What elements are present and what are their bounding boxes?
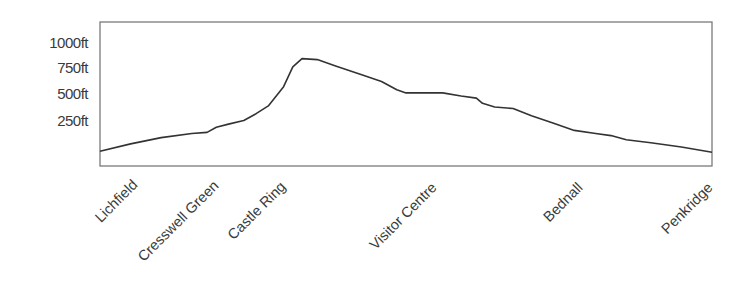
elevation-chart: 1000ft 750ft 500ft 250ft Lichfield Cress… xyxy=(0,0,754,306)
y-tick-label: 1000ft xyxy=(49,35,88,51)
y-tick-label: 250ft xyxy=(57,113,88,129)
plot-area xyxy=(0,0,754,306)
plot-border xyxy=(100,22,712,166)
y-tick-label: 750ft xyxy=(57,60,88,76)
elevation-profile-line xyxy=(100,59,712,153)
y-tick-label: 500ft xyxy=(57,86,88,102)
